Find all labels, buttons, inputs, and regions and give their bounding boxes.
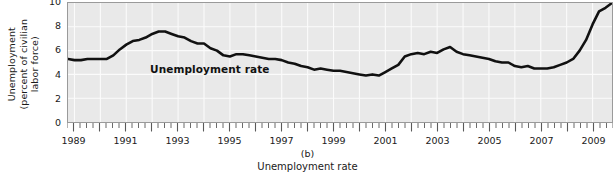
unemployment-rate-chart-figure: Unemployment (percent of civilian labor … xyxy=(0,0,615,174)
y-axis-tick-label: 6 xyxy=(55,46,61,56)
x-axis-tick-label: 1999 xyxy=(321,135,345,146)
y-axis-title-line-2: (percent of civilian xyxy=(17,19,29,110)
y-axis-tick-label: 2 xyxy=(55,94,61,104)
x-axis-tick-label: 2009 xyxy=(581,135,605,146)
plot-area xyxy=(67,2,613,123)
y-axis-tick-label: 0 xyxy=(55,118,61,128)
x-axis-tick-labels: 1989199119931995199719992001200320052007… xyxy=(67,135,613,149)
y-axis-title-line-1: Unemployment xyxy=(6,19,18,110)
y-axis-tick-labels: 0246810 xyxy=(44,0,64,125)
figure-caption: (b) Unemployment rate xyxy=(0,148,615,173)
y-axis-tick-label: 10 xyxy=(49,0,61,7)
x-axis-tick-label: 2007 xyxy=(529,135,553,146)
y-axis-tick-label: 8 xyxy=(55,21,61,31)
x-axis-tick-marks xyxy=(67,123,613,135)
series-annotation-label: Unemployment rate xyxy=(150,63,270,75)
x-axis-tick-label: 2001 xyxy=(373,135,397,146)
caption-panel-label: (b) xyxy=(0,148,615,160)
x-axis-tick-label: 1997 xyxy=(269,135,293,146)
y-axis-title: Unemployment (percent of civilian labor … xyxy=(0,0,46,128)
x-axis-tick-label: 1991 xyxy=(113,135,137,146)
y-axis-tick-label: 4 xyxy=(55,70,61,80)
caption-title: Unemployment rate xyxy=(0,160,615,173)
x-axis-tick-label: 1995 xyxy=(217,135,241,146)
y-axis-title-line-3: labor force) xyxy=(29,19,41,110)
x-axis-tick-label: 1993 xyxy=(165,135,189,146)
x-axis-tick-label: 1989 xyxy=(61,135,85,146)
x-axis-tick-label: 2003 xyxy=(425,135,449,146)
x-axis-tick-label: 2005 xyxy=(477,135,501,146)
